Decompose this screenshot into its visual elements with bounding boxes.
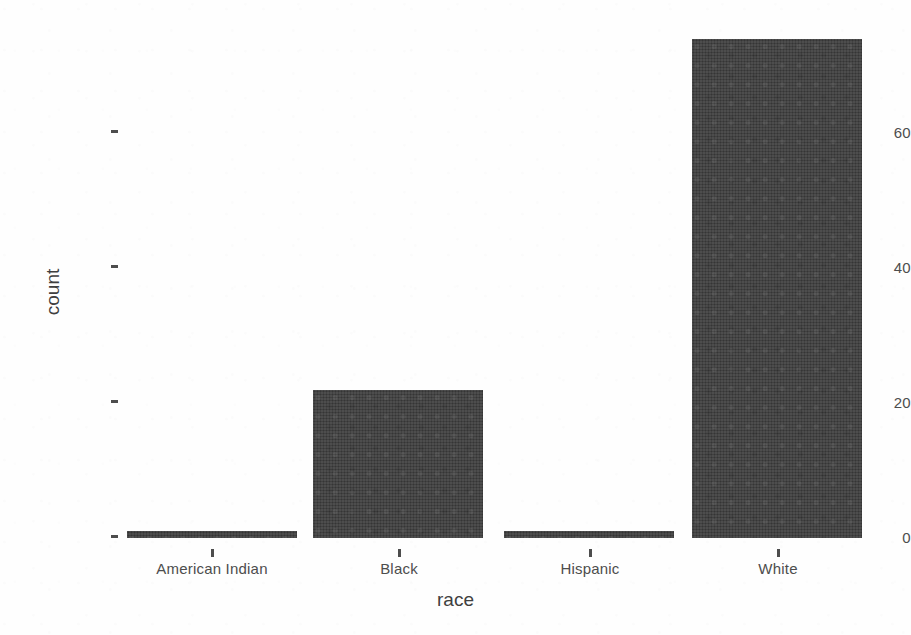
x-tick-mark-white [777,549,780,557]
x-tick-label-hispanic: Hispanic [495,560,685,577]
bar-hispanic [504,531,674,538]
plot-panel [119,20,870,538]
x-tick-mark-hispanic [589,549,592,557]
y-axis-title: count [42,268,64,316]
bar-white [692,39,862,538]
bar-american-indian [127,531,297,538]
x-tick-label-american-indian: American Indian [117,560,307,577]
y-tick-mark-20 [111,400,118,403]
bar-chart-figure: 60 40 20 0 count American Indian Black H… [0,0,911,635]
y-tick-mark-0 [111,535,118,538]
y-tick-mark-60 [111,130,118,133]
x-tick-label-white: White [683,560,873,577]
x-tick-mark-black [398,549,401,557]
x-axis-title: race [0,589,911,611]
bar-black [313,390,483,538]
x-tick-mark-american-indian [211,549,214,557]
x-tick-label-black: Black [304,560,494,577]
y-tick-mark-40 [111,265,118,268]
